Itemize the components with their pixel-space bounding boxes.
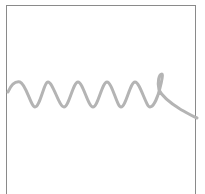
squiggle-drawing [0,0,205,194]
coil-stroke [8,74,197,118]
